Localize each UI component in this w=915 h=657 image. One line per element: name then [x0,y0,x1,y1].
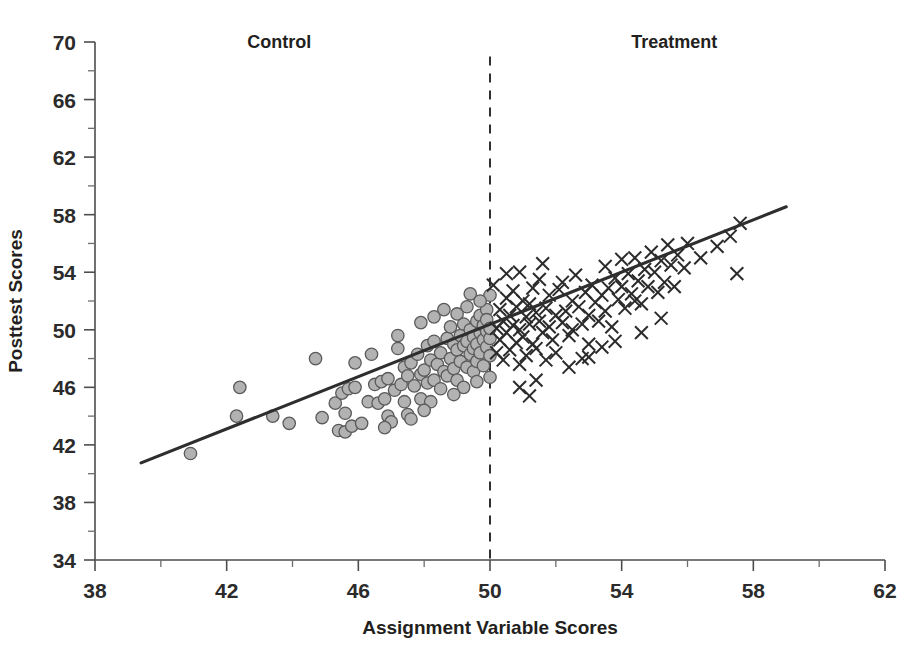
data-point-circle [349,357,361,369]
y-tick-label: 58 [53,204,77,227]
data-point-cross [694,251,707,264]
data-point-circle [230,410,242,422]
data-point-circle [392,342,404,354]
x-axis-ticks: 38424650545862 [83,560,896,602]
y-tick-label: 42 [53,434,76,457]
data-point-cross [609,335,622,348]
data-point-circle [448,388,460,400]
series-control [184,288,496,460]
data-point-cross [530,342,543,355]
data-point-cross [582,338,595,351]
data-point-cross [612,293,625,306]
data-point-cross [711,240,724,253]
x-axis-title: Assignment Variable Scores [362,617,618,638]
data-point-cross [615,253,628,266]
data-point-cross [619,302,632,315]
data-point-circle [405,413,417,425]
data-point-circle [355,417,367,429]
data-point-circle [484,371,496,383]
data-point-cross [599,260,612,273]
data-point-circle [382,373,394,385]
data-point-circle [349,381,361,393]
x-tick-label: 54 [610,579,634,602]
y-tick-label: 62 [53,146,76,169]
y-tick-label: 34 [53,549,77,572]
data-point-circle [316,411,328,423]
data-point-cross [655,312,668,325]
data-point-circle [408,380,420,392]
treatment-label: Treatment [631,32,717,52]
data-point-circle [398,396,410,408]
data-point-cross [526,282,539,295]
data-point-circle [474,295,486,307]
y-tick-label: 38 [53,491,77,514]
data-point-cross [556,316,569,329]
data-point-cross [678,262,691,275]
data-point-circle [378,393,390,405]
data-point-cross [549,346,562,359]
data-point-cross [596,341,609,354]
data-point-circle [339,407,351,419]
x-tick-label: 62 [873,579,896,602]
y-axis-title: Posttest Scores [5,229,26,373]
control-label: Control [247,32,311,52]
data-point-circle [415,316,427,328]
y-tick-label: 70 [53,31,76,54]
y-axis-ticks: 34384246505458626670 [53,31,95,572]
data-point-cross [533,273,546,286]
chart-canvas: 3842465054586234384246505458626670Assign… [0,0,915,657]
data-point-cross [635,326,648,339]
x-tick-label: 38 [83,579,107,602]
data-point-cross [569,269,582,282]
data-point-circle [418,404,430,416]
data-point-cross [563,361,576,374]
data-point-cross [513,266,526,279]
data-point-cross [546,333,559,346]
data-point-cross [536,257,549,270]
data-point-circle [444,321,456,333]
data-point-circle [428,311,440,323]
data-point-circle [184,447,196,459]
y-tick-label: 46 [53,376,76,399]
y-tick-label: 50 [53,319,76,342]
data-point-cross [500,267,513,280]
data-point-circle [392,329,404,341]
regression-fit-line [141,207,786,463]
y-tick-label: 54 [53,261,77,284]
x-tick-label: 58 [742,579,766,602]
regression-discontinuity-scatter-plot: 3842465054586234384246505458626670Assign… [0,0,915,657]
data-point-cross [523,390,536,403]
data-point-cross [513,358,526,371]
data-point-circle [234,381,246,393]
x-tick-label: 42 [215,579,238,602]
data-point-cross [540,354,553,367]
data-point-circle [451,308,463,320]
x-tick-label: 46 [347,579,370,602]
data-point-cross [520,349,533,362]
data-point-cross [628,251,641,264]
x-tick-label: 50 [478,579,501,602]
data-point-circle [378,421,390,433]
y-tick-label: 66 [53,89,76,112]
data-point-circle [365,348,377,360]
data-point-cross [530,374,543,387]
data-point-cross [615,280,628,293]
data-point-cross [730,267,743,280]
data-point-circle [471,375,483,387]
data-point-circle [434,383,446,395]
data-point-circle [309,352,321,364]
data-point-circle [283,417,295,429]
data-point-cross [605,321,618,334]
data-points-group [184,217,746,460]
